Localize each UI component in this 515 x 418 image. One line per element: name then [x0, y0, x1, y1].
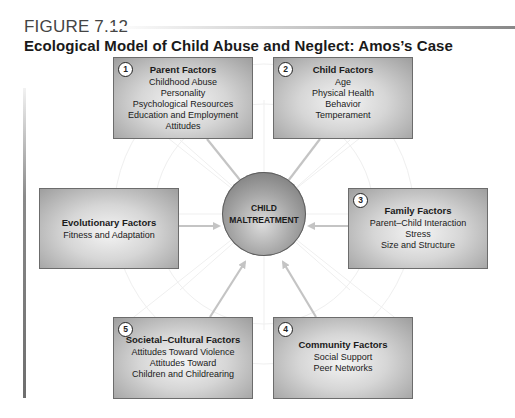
- center-label-line2: MALTREATMENT: [229, 214, 299, 226]
- factor-item: Education and Employment: [114, 110, 252, 121]
- factor-item: Temperament: [274, 110, 412, 121]
- factor-item: Fitness and Adaptation: [40, 230, 178, 241]
- factor-item: Peer Networks: [274, 363, 412, 374]
- arrow-child: [285, 139, 320, 185]
- child-factors-box: 2 Child Factors Age Physical Health Beha…: [273, 57, 413, 139]
- factor-item: Attitudes Toward: [114, 358, 252, 369]
- community-factors-box: 4 Community Factors Social Support Peer …: [273, 317, 413, 399]
- factor-item: Social Support: [274, 352, 412, 363]
- number-badge: 3: [353, 193, 368, 208]
- factor-item: Childhood Abuse: [114, 77, 252, 88]
- number-badge: 4: [278, 322, 293, 337]
- factor-item: Personality: [114, 88, 252, 99]
- factor-item: Parent–Child Interaction: [349, 218, 487, 229]
- arrow-societal: [210, 262, 245, 317]
- parent-factors-heading: Parent Factors: [114, 64, 252, 75]
- factor-item: Attitudes Toward Violence: [114, 347, 252, 358]
- factor-item: Psychological Resources: [114, 99, 252, 110]
- child-maltreatment-node: CHILD MALTREATMENT: [222, 172, 306, 256]
- child-factors-heading: Child Factors: [274, 64, 412, 75]
- number-badge: 1: [118, 62, 133, 77]
- societal-cultural-factors-heading: Societal–Cultural Factors: [114, 334, 252, 345]
- factor-item: Behavior: [274, 99, 412, 110]
- number-badge: 2: [278, 62, 293, 77]
- evolutionary-factors-box: Evolutionary Factors Fitness and Adaptat…: [39, 188, 179, 269]
- evolutionary-factors-heading: Evolutionary Factors: [40, 217, 178, 228]
- center-label-line1: CHILD: [251, 202, 277, 214]
- parent-factors-box: 1 Parent Factors Childhood Abuse Persona…: [113, 57, 253, 139]
- arrow-parent: [207, 139, 244, 185]
- number-badge: 5: [118, 322, 133, 337]
- factor-item: Age: [274, 77, 412, 88]
- societal-cultural-factors-box: 5 Societal–Cultural Factors Attitudes To…: [113, 317, 253, 399]
- factor-item: Stress: [349, 229, 487, 240]
- factor-item: Children and Childrearing: [114, 369, 252, 380]
- family-factors-box: 3 Family Factors Parent–Child Interactio…: [348, 188, 488, 269]
- factor-item: Attitudes: [114, 121, 252, 132]
- community-factors-heading: Community Factors: [274, 339, 412, 350]
- factor-item: Physical Health: [274, 88, 412, 99]
- family-factors-heading: Family Factors: [349, 205, 487, 216]
- factor-item: Size and Structure: [349, 240, 487, 251]
- arrow-community: [283, 262, 316, 317]
